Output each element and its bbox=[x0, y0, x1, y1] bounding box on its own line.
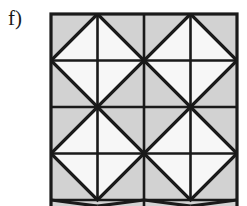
figure-panel: f) bbox=[0, 0, 247, 206]
tiling-content bbox=[51, 14, 237, 206]
tiling-diagram bbox=[0, 0, 247, 206]
